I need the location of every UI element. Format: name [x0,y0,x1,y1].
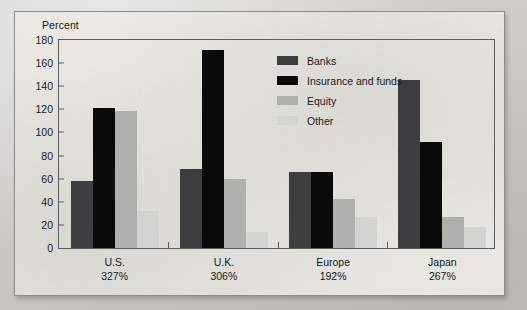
category-name: U.K. [210,255,237,269]
legend-label: Banks [307,55,336,67]
legend-item: Banks [277,52,402,69]
bar [180,169,202,248]
legend-label: Equity [307,95,336,107]
chart-legend: BanksInsurance and fundsEquityOther [277,52,402,132]
y-axis-tick-label: 0 [47,242,59,254]
legend-label: Other [307,115,333,127]
legend-item: Equity [277,92,402,109]
legend-color-swatch [277,76,298,85]
figure-frame: Percent 020406080100120140160180 U.S.327… [14,11,505,296]
bar [71,181,93,248]
bar-group [398,40,486,248]
plot-area: 020406080100120140160180 U.S.327%U.K.306… [58,39,495,249]
legend-item: Insurance and funds [277,72,402,89]
bar [464,227,486,248]
bar [333,199,355,248]
bar [115,111,137,249]
y-axis-title: Percent [42,19,79,31]
category-total-percent: 327% [101,269,128,283]
y-axis-tick-label: 160 [35,57,59,69]
category-total-percent: 306% [210,269,237,283]
x-axis-group-separator-tick [387,242,388,248]
bar [224,179,246,248]
x-axis-group-separator-tick [168,242,169,248]
y-axis-tick-label: 120 [35,103,59,115]
legend-color-swatch [277,116,298,125]
category-name: Japan [428,255,457,269]
legend-color-swatch [277,56,298,65]
scanned-page-background: Percent 020406080100120140160180 U.S.327… [0,0,527,310]
y-axis-tick-label: 180 [35,34,59,46]
y-axis-tick-label: 100 [35,126,59,138]
x-axis-group-separator-tick [278,242,279,248]
bar [246,232,268,248]
bar-group [71,40,159,248]
bar [137,211,159,248]
bar [420,142,442,248]
category-name: Europe [316,255,350,269]
bar [93,108,115,248]
x-axis-category-label: Europe192% [316,255,350,283]
bar [355,217,377,248]
y-axis-tick-label: 80 [41,150,59,162]
bar [442,217,464,248]
bar [311,172,333,248]
y-axis-tick-label: 40 [41,196,59,208]
x-axis-category-label: Japan267% [428,255,457,283]
x-axis-category-label: U.S.327% [101,255,128,283]
legend-label: Insurance and funds [307,75,402,87]
y-axis-tick-label: 20 [41,219,59,231]
bar-group [180,40,268,248]
y-axis-tick-label: 60 [41,173,59,185]
category-total-percent: 192% [316,269,350,283]
legend-color-swatch [277,96,298,105]
category-total-percent: 267% [428,269,457,283]
y-axis-tick-label: 140 [35,80,59,92]
category-name: U.S. [101,255,128,269]
legend-item: Other [277,112,402,129]
bar [202,50,224,248]
x-axis-category-label: U.K.306% [210,255,237,283]
bar [289,172,311,248]
